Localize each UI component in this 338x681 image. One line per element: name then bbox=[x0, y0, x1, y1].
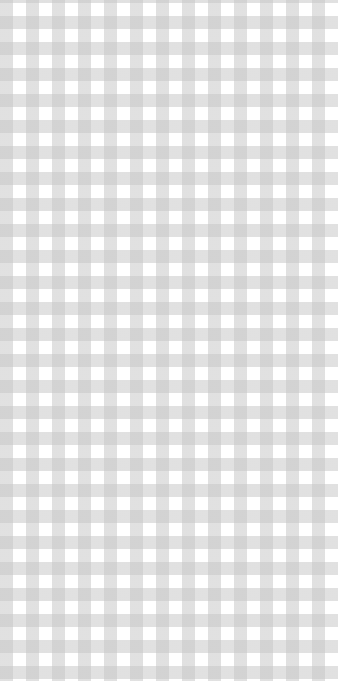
gingham-pattern-background bbox=[0, 0, 338, 681]
